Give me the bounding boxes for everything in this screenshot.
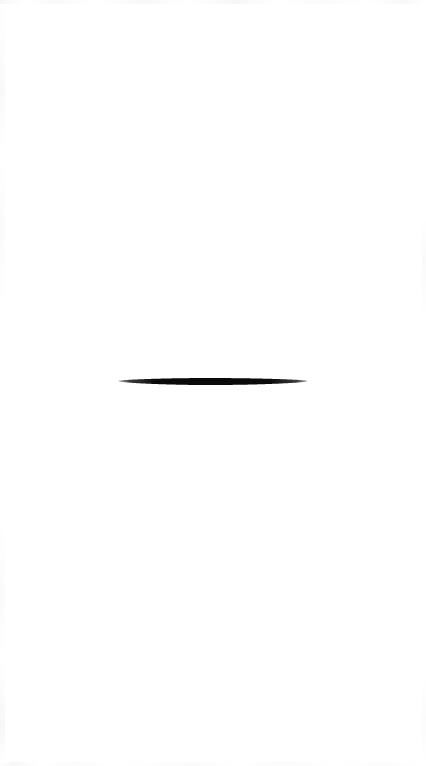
horizontal-ink-stroke — [118, 378, 308, 385]
ink-stroke-layer — [0, 0, 426, 766]
scanned-page — [0, 0, 426, 766]
